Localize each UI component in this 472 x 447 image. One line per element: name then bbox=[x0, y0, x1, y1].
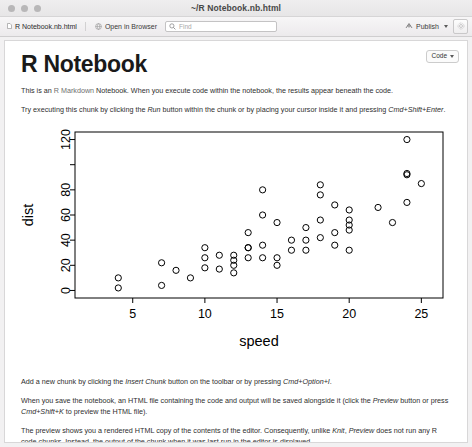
data-point bbox=[260, 242, 266, 248]
application-window: ~/R Notebook.nb.html R Notebook.nb.html … bbox=[0, 0, 472, 447]
data-point bbox=[115, 275, 121, 281]
plot-frame bbox=[75, 132, 443, 298]
x-axis-label: speed bbox=[239, 333, 279, 349]
data-point bbox=[173, 267, 179, 273]
editor-toolbar: R Notebook.nb.html Open in Browser Find bbox=[0, 17, 472, 37]
save-notebook-paragraph: When you save the notebook, an HTML file… bbox=[21, 396, 449, 417]
data-point-group bbox=[115, 136, 424, 291]
document-tab-label: R Notebook.nb.html bbox=[15, 23, 77, 30]
y-axis-tick-label: 0 bbox=[59, 287, 73, 294]
minimize-window-button[interactable] bbox=[21, 5, 28, 12]
preview-emphasis-2: Preview bbox=[349, 426, 375, 435]
y-axis-label: dist bbox=[20, 204, 36, 227]
data-point bbox=[404, 199, 410, 205]
notebook-preview-pane: Code R Notebook This is an R Markdown No… bbox=[4, 40, 468, 443]
run-emphasis: Run bbox=[147, 105, 160, 114]
x-axis-tick-label: 10 bbox=[198, 307, 212, 321]
data-point bbox=[346, 207, 352, 213]
data-point bbox=[202, 244, 208, 250]
data-point bbox=[389, 219, 395, 225]
preview-text-1: The preview shows you a rendered HTML co… bbox=[21, 426, 332, 435]
data-point bbox=[216, 252, 222, 258]
data-point bbox=[274, 219, 280, 225]
data-point bbox=[303, 247, 309, 253]
save-text-2: button or press bbox=[398, 396, 448, 405]
run-chunk-text-3: . bbox=[443, 105, 445, 114]
y-axis-tick-label: 60 bbox=[59, 208, 73, 222]
chevron-down-icon bbox=[450, 55, 454, 58]
data-point bbox=[332, 229, 338, 235]
find-input[interactable]: Find bbox=[165, 21, 277, 32]
data-point bbox=[317, 192, 323, 198]
intro-text-after: Notebook. When you execute code within t… bbox=[94, 86, 393, 95]
document-tab[interactable]: R Notebook.nb.html bbox=[4, 22, 86, 31]
open-in-browser-button[interactable]: Open in Browser bbox=[92, 22, 160, 32]
zoom-window-button[interactable] bbox=[34, 5, 41, 12]
scatter-plot-svg: 020406080120510152025speeddist bbox=[15, 126, 455, 371]
knit-emphasis: Knit bbox=[332, 426, 344, 435]
data-point bbox=[288, 247, 294, 253]
publish-label: Publish bbox=[416, 23, 439, 30]
data-point bbox=[260, 187, 266, 193]
data-point bbox=[158, 282, 164, 288]
code-dropdown-button[interactable]: Code bbox=[426, 50, 459, 63]
preview-shortcut-emphasis: Cmd+Shift+K bbox=[21, 407, 64, 416]
data-point bbox=[404, 136, 410, 142]
insert-chunk-text-1: Add a new chunk by clicking the bbox=[21, 377, 125, 386]
data-point bbox=[317, 234, 323, 240]
data-point bbox=[346, 247, 352, 253]
publish-button[interactable]: Publish bbox=[402, 21, 442, 32]
open-in-browser-label: Open in Browser bbox=[105, 23, 157, 30]
data-point bbox=[332, 242, 338, 248]
page-title: R Notebook bbox=[21, 53, 449, 76]
data-point bbox=[202, 265, 208, 271]
publish-group: Publish bbox=[402, 19, 468, 34]
footer-paragraphs: Add a new chunk by clicking the Insert C… bbox=[21, 377, 449, 443]
intro-text-before: This is an bbox=[21, 86, 54, 95]
data-point bbox=[245, 255, 251, 261]
preview-emphasis: Preview bbox=[373, 396, 399, 405]
insert-chunk-shortcut-emphasis: Cmd+Option+I bbox=[283, 377, 330, 386]
intro-paragraph: This is an R Markdown Notebook. When you… bbox=[21, 86, 449, 96]
data-point bbox=[288, 237, 294, 243]
data-point bbox=[303, 224, 309, 230]
data-point bbox=[375, 204, 381, 210]
y-axis-tick-label: 120 bbox=[59, 129, 73, 150]
data-point bbox=[187, 275, 193, 281]
chunk-output-plot: 020406080120510152025speeddist bbox=[15, 126, 455, 371]
preview-explanation-paragraph: The preview shows you a rendered HTML co… bbox=[21, 426, 449, 443]
data-point bbox=[303, 237, 309, 243]
data-point bbox=[115, 285, 121, 291]
close-window-button[interactable] bbox=[8, 5, 15, 12]
x-axis-tick-label: 15 bbox=[270, 307, 284, 321]
data-point bbox=[274, 255, 280, 261]
code-button-label: Code bbox=[431, 53, 447, 60]
publish-icon bbox=[405, 22, 413, 31]
plot-root: 020406080120510152025speeddist bbox=[20, 129, 443, 349]
insert-chunk-emphasis: Insert Chunk bbox=[125, 377, 166, 386]
r-markdown-link[interactable]: R Markdown bbox=[54, 86, 94, 95]
run-chunk-text-1: Try executing this chunk by clicking the bbox=[21, 105, 147, 114]
save-text-1: When you save the notebook, an HTML file… bbox=[21, 396, 373, 405]
notebook-document: Code R Notebook This is an R Markdown No… bbox=[5, 41, 467, 442]
insert-chunk-text-2: button on the toolbar or by pressing bbox=[166, 377, 283, 386]
data-point bbox=[317, 182, 323, 188]
settings-button[interactable] bbox=[453, 19, 468, 34]
data-point bbox=[231, 270, 237, 276]
window-title: ~/R Notebook.nb.html bbox=[0, 3, 472, 13]
y-axis-tick-label: 80 bbox=[59, 183, 73, 197]
save-text-3: to preview the HTML file). bbox=[64, 407, 148, 416]
x-axis-tick-label: 25 bbox=[414, 307, 428, 321]
data-point bbox=[216, 266, 222, 272]
insert-chunk-paragraph: Add a new chunk by clicking the Insert C… bbox=[21, 377, 449, 387]
data-point bbox=[260, 255, 266, 261]
search-icon bbox=[169, 23, 176, 31]
data-point bbox=[158, 260, 164, 266]
y-axis-tick-label: 40 bbox=[59, 233, 73, 247]
gear-icon bbox=[457, 22, 465, 31]
data-point bbox=[245, 229, 251, 235]
data-point bbox=[274, 262, 280, 268]
y-axis-tick-label: 20 bbox=[59, 258, 73, 272]
publish-dropdown-caret-icon[interactable] bbox=[444, 25, 448, 28]
x-axis-tick-label: 20 bbox=[342, 307, 356, 321]
